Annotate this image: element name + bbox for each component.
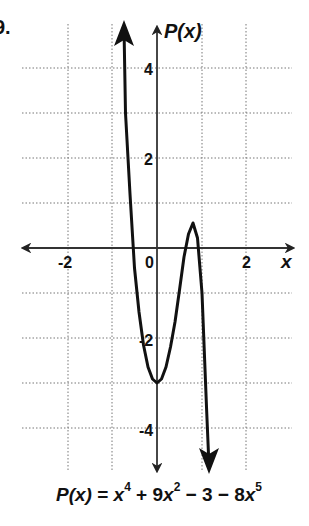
equals-sign: = xyxy=(92,484,114,505)
x-axis-label: x xyxy=(280,251,293,272)
y-tick-label: -2 xyxy=(139,332,153,349)
term-var: x xyxy=(245,484,256,505)
term-coef: + 9 xyxy=(131,484,163,505)
x-tick-label: 2 xyxy=(242,254,251,271)
chart-svg: -2 0 2 4 2 -2 -4 x P(x) xyxy=(0,0,309,526)
equation-lhs: P(x) xyxy=(56,484,92,505)
y-tick-label: 2 xyxy=(144,151,153,168)
exponent: 4 xyxy=(124,480,131,494)
term-var: x xyxy=(163,484,174,505)
y-axis-label: P(x) xyxy=(164,20,202,42)
graph-figure: 9. -2 xyxy=(0,0,309,526)
x-tick-label: 0 xyxy=(145,254,154,271)
function-equation: P(x) = x4 + 9x2 − 3 − 8x5 xyxy=(56,480,262,506)
function-curve xyxy=(124,28,209,466)
exponent: 5 xyxy=(255,480,262,494)
term-coef: − 3 − 8 xyxy=(180,484,244,505)
y-tick-label: -4 xyxy=(139,422,153,439)
problem-number: 9. xyxy=(0,16,11,39)
y-tick-label: 4 xyxy=(144,61,153,78)
term-var: x xyxy=(114,484,125,505)
x-tick-label: -2 xyxy=(58,254,72,271)
